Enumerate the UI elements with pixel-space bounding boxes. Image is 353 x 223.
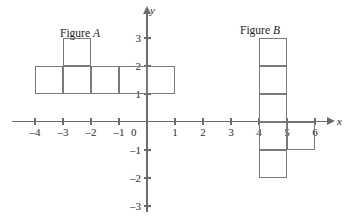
figure-b-title: Figure B	[240, 25, 280, 37]
x-tick-label: 3	[220, 127, 242, 138]
grid-cell	[119, 66, 147, 94]
grid-cell	[287, 122, 315, 150]
grid-cell	[259, 122, 287, 150]
y-tick-label: 3	[120, 33, 141, 44]
x-tick-label: –2	[80, 127, 102, 138]
x-tick-mark	[34, 118, 35, 125]
x-tick-label: –3	[52, 127, 74, 138]
x-axis-label: x	[337, 116, 342, 127]
grid-cell	[259, 38, 287, 66]
x-tick-mark	[90, 118, 91, 125]
x-tick-mark	[62, 118, 63, 125]
y-tick-mark	[144, 37, 151, 38]
grid-cell	[63, 38, 91, 66]
y-tick-label: –2	[120, 173, 141, 184]
grid-cell	[259, 94, 287, 122]
y-tick-mark	[144, 177, 151, 178]
x-tick-mark	[118, 118, 119, 125]
y-tick-label: –1	[120, 145, 141, 156]
y-tick-mark	[144, 149, 151, 150]
coordinate-plane-diagram: x y 0 –4–3–2–1123456321–1–2–3 Figure A F…	[0, 0, 353, 223]
grid-cell	[259, 66, 287, 94]
x-axis-arrow-icon	[327, 117, 335, 125]
origin-label: 0	[131, 127, 137, 138]
y-axis-label: y	[150, 5, 155, 16]
grid-cell	[63, 66, 91, 94]
figure-b-title-text: Figure	[240, 24, 273, 36]
figure-a-title-letter: A	[93, 27, 100, 39]
x-tick-label: 1	[164, 127, 186, 138]
x-tick-label: –1	[108, 127, 130, 138]
x-tick-label: 2	[192, 127, 214, 138]
y-axis-line	[146, 12, 147, 212]
grid-cell	[147, 66, 175, 94]
y-tick-label: –3	[120, 201, 141, 212]
grid-cell	[91, 66, 119, 94]
figure-b-title-letter: B	[273, 24, 280, 36]
x-tick-mark	[174, 118, 175, 125]
y-tick-mark	[144, 205, 151, 206]
x-tick-mark	[230, 118, 231, 125]
x-tick-label: –4	[24, 127, 46, 138]
grid-cell	[259, 150, 287, 178]
grid-cell	[35, 66, 63, 94]
x-tick-mark	[202, 118, 203, 125]
